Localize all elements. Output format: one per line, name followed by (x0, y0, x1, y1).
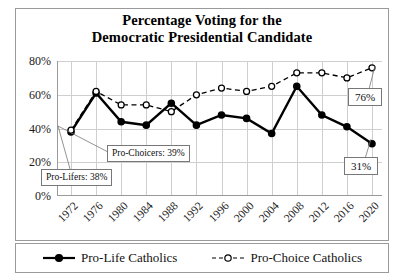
legend-label-pro-life: Pro-Life Catholics (81, 250, 177, 266)
legend-item-pro-life: Pro-Life Catholics (42, 250, 177, 266)
callout-leader-lines (0, 0, 395, 280)
legend-item-pro-choice: Pro-Choice Catholics (211, 250, 362, 266)
pro-life-end-value-box: 31% (344, 157, 378, 175)
legend-marker-filled-circle-icon (42, 252, 76, 264)
pro-choice-end-value-box: 76% (348, 88, 382, 106)
chart-legend: Pro-Life Catholics Pro-Choice Catholics (15, 243, 389, 273)
pro-lifers-callout: Pro-Lifers: 38% (41, 169, 112, 186)
legend-marker-open-circle-icon (211, 252, 245, 264)
pro-choicers-callout: Pro-Choicers: 39% (107, 145, 190, 162)
legend-label-pro-choice: Pro-Choice Catholics (250, 250, 362, 266)
chart-figure: Percentage Voting for the Democratic Pre… (0, 0, 395, 280)
